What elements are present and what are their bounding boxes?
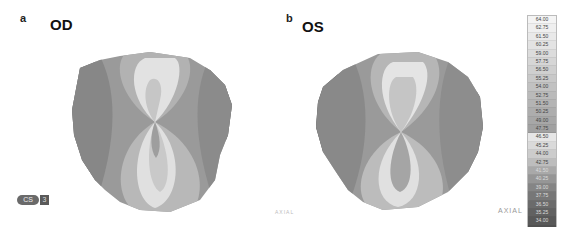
eye-label-od: OD — [50, 16, 73, 33]
scale-swatch: 59.00 — [528, 50, 556, 58]
map-type-label-center: AXIAL — [275, 209, 294, 215]
corneal-map-os — [308, 42, 498, 217]
scale-swatch: 46.50 — [528, 133, 556, 141]
scale-swatch: 49.00 — [528, 117, 556, 125]
cs-logo: CS 3 — [17, 195, 49, 205]
scale-swatch: 32.75 — [528, 226, 556, 227]
eye-label-os: OS — [302, 18, 324, 35]
scale-swatch: 47.75 — [528, 125, 556, 133]
scale-swatch: 34.00 — [528, 217, 556, 225]
scale-swatch: 39.00 — [528, 184, 556, 192]
scale-swatch: 62.75 — [528, 24, 556, 32]
scale-swatch: 52.75 — [528, 92, 556, 100]
scale-swatch: 44.00 — [528, 150, 556, 158]
scale-swatch: 42.75 — [528, 159, 556, 167]
scale-swatch: 54.00 — [528, 83, 556, 91]
scale-swatch: 51.50 — [528, 100, 556, 108]
corneal-map-od — [60, 40, 250, 220]
scale-swatch: 35.25 — [528, 209, 556, 217]
scale-swatch: 36.50 — [528, 201, 556, 209]
panel-letter-b: b — [286, 12, 293, 24]
panel-letter-a: a — [20, 12, 26, 24]
scale-swatch: 37.75 — [528, 192, 556, 200]
cs-logo-text: CS — [17, 195, 39, 205]
scale-swatch: 64.00 — [528, 16, 556, 24]
scale-swatch: 56.50 — [528, 66, 556, 74]
scale-swatch: 60.25 — [528, 41, 556, 49]
scale-swatch: 57.75 — [528, 58, 556, 66]
map-type-label: AXIAL — [498, 207, 523, 214]
scale-swatch: 55.25 — [528, 75, 556, 83]
scale-swatch: 40.25 — [528, 175, 556, 183]
color-scale-legend: 64.0062.7561.5060.2559.0057.7556.5055.25… — [527, 15, 557, 227]
scale-swatch: 45.25 — [528, 142, 556, 150]
scale-swatch: 61.50 — [528, 33, 556, 41]
scale-swatch: 41.50 — [528, 167, 556, 175]
scale-swatch: 50.25 — [528, 108, 556, 116]
cs-logo-badge: 3 — [40, 195, 49, 205]
